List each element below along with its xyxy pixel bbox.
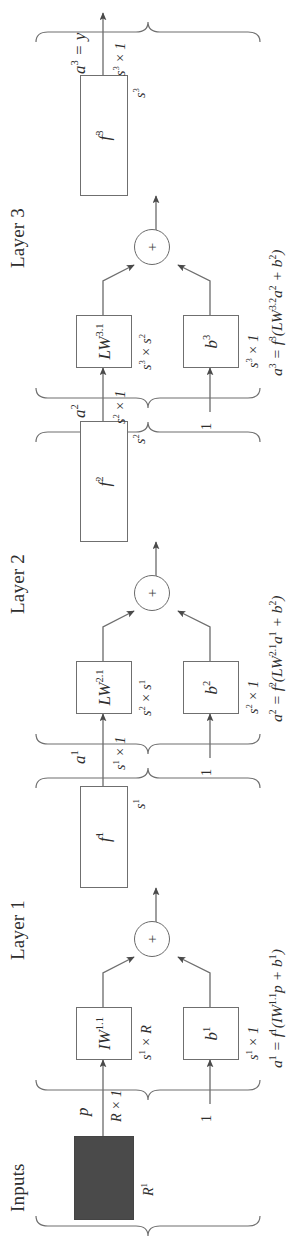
layer3-bias-label: b3 bbox=[201, 335, 222, 349]
layer2-weight-box: LW2.1 bbox=[76, 661, 132, 714]
layer1-transfer-label: f1 bbox=[94, 832, 115, 842]
layer1-weight-dim: s1 × R bbox=[138, 1025, 154, 1060]
layer1-transfer-box: f1 bbox=[80, 786, 128, 888]
layer2-output-dim: s2 × 1 bbox=[112, 391, 128, 424]
layer2-bias-dim: s2 × 1 bbox=[245, 681, 261, 714]
layer2-weight-label: LW2.1 bbox=[94, 669, 115, 705]
layer3-weight-label: LW3.1 bbox=[94, 323, 115, 359]
layer3-sum-symbol: + bbox=[144, 243, 161, 251]
layer1-equation: a1 = f1(IW1.1p + b1) bbox=[268, 949, 285, 1068]
layer2-weight-dim: s2 × s1 bbox=[138, 680, 154, 716]
group-title-layer1: Layer 1 bbox=[8, 900, 27, 960]
layer1-output-dim: s1 × 1 bbox=[112, 737, 128, 770]
layer2-transfer-box: f2 bbox=[80, 421, 128, 542]
network-diagram: Inputs R1 p R × 1 1 Layer 1 IW1.1 s1 × R… bbox=[0, 0, 296, 1256]
diagram-connectors bbox=[0, 0, 296, 1256]
input-block bbox=[74, 1136, 134, 1220]
layer1-weight-label: IW1.1 bbox=[94, 1017, 115, 1050]
layer1-bias-label: b1 bbox=[201, 1027, 222, 1041]
layer3-output-dim: s3 × 1 bbox=[112, 43, 128, 76]
group-title-inputs: Inputs bbox=[8, 1163, 27, 1212]
layer3-transfer-box: f3 bbox=[80, 75, 128, 196]
layer2-output-name: a2 bbox=[70, 404, 88, 418]
layer3-transfer-label: f3 bbox=[94, 131, 115, 141]
group-title-layer3: Layer 3 bbox=[8, 208, 27, 268]
input-signal-dim: R × 1 bbox=[110, 1090, 124, 1122]
input-signal-name: p bbox=[74, 1108, 91, 1117]
layer3-bias-dim: s3 × 1 bbox=[245, 335, 261, 368]
layer1-bias-input-one: 1 bbox=[200, 1115, 214, 1122]
layer3-weight-dim: s3 × s2 bbox=[138, 334, 154, 370]
layer2-transfer-dim: s2 bbox=[132, 434, 148, 444]
layer3-output-name: a3 = y bbox=[70, 33, 88, 74]
layer2-bias-input-one: 1 bbox=[200, 769, 214, 776]
group-title-layer2: Layer 2 bbox=[8, 554, 27, 614]
layer3-bias-input-one: 1 bbox=[200, 423, 214, 430]
layer1-bias-dim: s1 × 1 bbox=[245, 1027, 261, 1060]
layer2-bias-label: b2 bbox=[201, 681, 222, 695]
layer1-bias-box: b1 bbox=[183, 1007, 239, 1060]
layer3-sum-node: + bbox=[134, 229, 170, 265]
layer3-equation: a3 = f3(LW3.2a2 + b2) bbox=[268, 250, 285, 376]
layer2-bias-box: b2 bbox=[183, 661, 239, 714]
layer2-equation: a2 = f2(LW2.1a1 + b2) bbox=[268, 596, 285, 722]
layer1-weight-box: IW1.1 bbox=[76, 1007, 132, 1060]
diagram-rotated-canvas: Inputs R1 p R × 1 1 Layer 1 IW1.1 s1 × R… bbox=[0, 0, 296, 1256]
input-block-dim: R1 bbox=[140, 1183, 156, 1196]
layer1-transfer-dim: s1 bbox=[132, 799, 148, 809]
layer1-sum-symbol: + bbox=[144, 935, 161, 943]
layer3-transfer-dim: s3 bbox=[132, 88, 148, 98]
layer2-transfer-label: f2 bbox=[94, 477, 115, 487]
layer2-sum-symbol: + bbox=[144, 589, 161, 597]
layer3-bias-box: b3 bbox=[183, 315, 239, 368]
layer1-sum-node: + bbox=[134, 921, 170, 957]
layer2-sum-node: + bbox=[134, 575, 170, 611]
layer3-weight-box: LW3.1 bbox=[76, 315, 132, 368]
layer1-output-name: a1 bbox=[70, 750, 88, 764]
